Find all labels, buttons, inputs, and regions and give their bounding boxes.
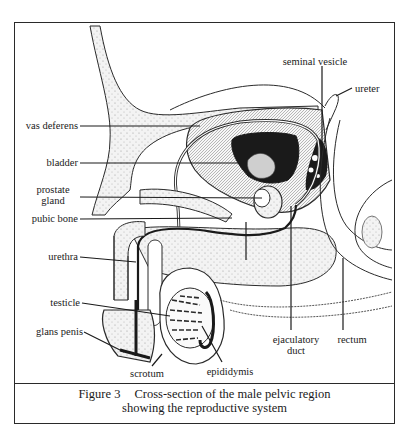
caption-line-1: Figure 3Cross-section of the male pelvic…: [14, 387, 395, 401]
leader-pubic-bone: [80, 218, 232, 219]
label-scrotum: scrotum: [122, 368, 172, 379]
label-rectum: rectum: [330, 334, 374, 345]
label-testicle: testicle: [14, 297, 80, 308]
label-glans-penis: glans penis: [14, 326, 83, 337]
label-vas-deferens: vas deferens: [14, 120, 78, 131]
label-seminal-vesicle: seminal vesicle: [278, 56, 352, 67]
label-bladder: bladder: [14, 157, 78, 168]
pubic-bone: [140, 189, 232, 222]
caption-line-2: showing the reproductive system: [14, 401, 395, 415]
testicle: [166, 288, 214, 348]
label-ureter: ureter: [355, 83, 379, 94]
leader-ureter: [336, 88, 352, 96]
label-prostate-gland-line2: gland: [30, 195, 76, 206]
label-urethra: urethra: [14, 251, 78, 262]
label-prostate-gland-line1: prostate: [30, 184, 76, 195]
figure-number: Figure 3: [78, 387, 120, 401]
leader-scrotum: [152, 354, 162, 366]
label-ejaculatory-duct-line1: ejaculatory: [266, 334, 326, 345]
caption-title: Cross-section of the male pelvic region: [134, 387, 330, 401]
ureter: [325, 94, 338, 130]
label-ejaculatory-duct-line2: duct: [266, 345, 326, 356]
figure-caption: Figure 3Cross-section of the male pelvic…: [14, 387, 395, 415]
label-pubic-bone: pubic bone: [14, 213, 78, 224]
prostate-gland: [254, 186, 282, 218]
label-epididymis: epididymis: [200, 366, 260, 377]
penis: [103, 222, 162, 362]
